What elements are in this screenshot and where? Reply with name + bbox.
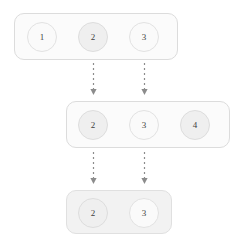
node-3-1: 2 (78, 198, 108, 228)
arrow-row1-to-row2-right-icon (140, 63, 149, 95)
node-2-2: 3 (129, 110, 159, 140)
node-1-2: 2 (78, 22, 108, 52)
node-1-1: 1 (27, 22, 57, 52)
node-2-3: 4 (180, 110, 210, 140)
arrow-row2-to-row3-left-icon (89, 152, 98, 184)
node-3-2: 3 (129, 198, 159, 228)
node-2-1: 2 (78, 110, 108, 140)
arrow-row1-to-row2-left-icon (89, 63, 98, 95)
sliding-window-diagram: 12323423 (0, 0, 243, 247)
arrow-row2-to-row3-right-icon (140, 152, 149, 184)
node-1-3: 3 (129, 22, 159, 52)
